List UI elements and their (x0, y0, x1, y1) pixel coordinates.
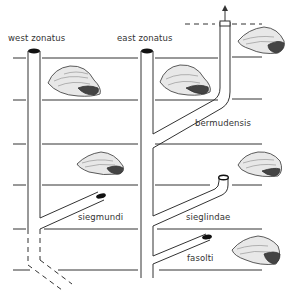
tube-caps (28, 21, 230, 240)
shell-bermudensis-icon (238, 27, 284, 54)
label-fasolti: fasolti (187, 253, 214, 263)
phylogeny-diagram (0, 0, 304, 300)
lineage-tubes (28, 22, 230, 290)
shell-west-zonatus-icon (48, 66, 100, 96)
shell-siegmundi-icon (77, 152, 124, 175)
label-bermudensis: bermudensis (195, 118, 251, 128)
arrow-up-icon (222, 5, 228, 11)
stratigraphic-lines (13, 57, 262, 270)
shell-fasolti-icon (232, 236, 280, 265)
label-east-zonatus: east zonatus (117, 33, 173, 43)
label-siegmundi: siegmundi (78, 212, 123, 222)
shell-east-zonatus-icon (160, 65, 210, 95)
shell-sieglindae-icon (238, 152, 282, 177)
label-west-zonatus: west zonatus (8, 33, 65, 43)
label-sieglindae: sieglindae (186, 212, 230, 222)
